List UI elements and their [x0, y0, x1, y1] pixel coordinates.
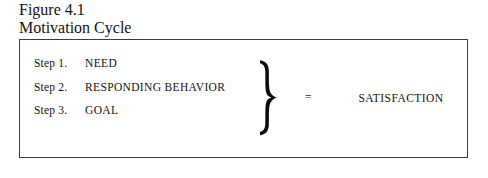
figure-caption: Figure 4.1 Motivation Cycle: [19, 1, 319, 37]
figure-number: Figure 4.1: [19, 1, 319, 19]
step-value: RESPONDING BEHAVIOR: [85, 81, 225, 93]
equals-sign: =: [305, 92, 312, 104]
steps-list: Step 1. NEED Step 2. RESPONDING BEHAVIOR…: [34, 57, 264, 128]
step-label: Step 3.: [34, 104, 85, 116]
step-value: NEED: [85, 57, 117, 69]
list-item: Step 1. NEED: [34, 57, 264, 81]
figure-frame: Step 1. NEED Step 2. RESPONDING BEHAVIOR…: [19, 39, 468, 158]
step-label: Step 2.: [34, 81, 85, 93]
brace-equation-group: = SATISFACTION: [254, 50, 444, 146]
list-item: Step 3. GOAL: [34, 104, 264, 128]
step-label: Step 1.: [34, 57, 85, 69]
figure-title: Motivation Cycle: [19, 19, 319, 37]
step-value: GOAL: [85, 104, 118, 116]
right-curly-brace-icon: [254, 59, 284, 137]
result-term: SATISFACTION: [359, 92, 444, 104]
list-item: Step 2. RESPONDING BEHAVIOR: [34, 81, 264, 105]
